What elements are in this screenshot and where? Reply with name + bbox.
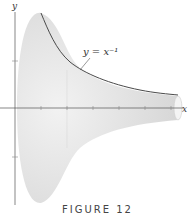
x-axis-label: x [182, 104, 187, 114]
horn-figure: y = x⁻¹ x y [0, 0, 189, 215]
label-leader-line [80, 58, 90, 70]
curve-label: y = x⁻¹ [82, 46, 118, 57]
y-axis-label: y [11, 1, 18, 11]
figure-caption: FIGURE 12 [62, 204, 133, 215]
